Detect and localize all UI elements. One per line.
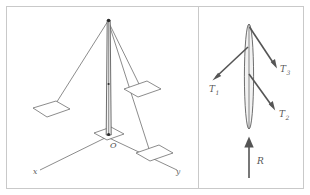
force-label-t3-subscript: 3 [287,69,291,76]
force-label-t1-subscript: 1 [216,89,220,96]
force-arrowhead-r [244,137,253,148]
force-label-t2-subscript: 2 [285,114,290,121]
right-panel-group: T 1 T 3 T 2 R [209,24,291,178]
guy-wire-1 [53,21,108,108]
force-label-r-symbol: R [256,156,264,166]
axis-x-line [40,137,107,170]
origin-label: O [110,141,117,150]
force-arrow-t1 [216,47,248,77]
left-panel-group: x y O [33,19,181,176]
mast-base-node-dot [107,133,110,136]
force-label-t1: T 1 [209,84,219,96]
force-label-t2: T 2 [279,109,290,121]
anchor-plate-x [33,101,70,117]
axis-x-label: x [33,167,38,176]
anchor-plate-y [136,145,173,161]
axis-y-label: y [175,167,181,176]
guy-wire-2 [108,21,139,84]
force-label-r: R [256,156,264,166]
force-label-t3: T 3 [280,64,291,76]
physics-figure: x y O T 1 [0,0,310,195]
mast-mid-node-dot [108,83,110,85]
mast-top-node-dot [107,19,110,22]
anchor-plate-mid [124,81,161,97]
figure-canvas: x y O T 1 [0,0,310,195]
